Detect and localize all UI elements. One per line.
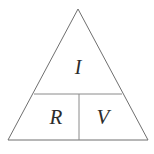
bottom-left-cell-label: R	[49, 105, 63, 129]
formula-triangle-figure: I R V	[0, 0, 154, 154]
top-cell-label: I	[74, 56, 83, 78]
bottom-right-cell-label: V	[97, 105, 112, 129]
formula-triangle-diagram: I R V	[0, 0, 154, 154]
